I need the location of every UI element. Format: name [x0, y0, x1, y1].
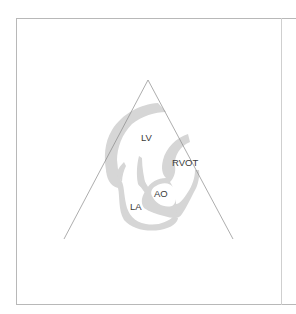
ultrasound-sector [64, 80, 233, 239]
heart-diagram [0, 0, 296, 314]
label-la: LA [130, 202, 142, 212]
label-ao: AO [154, 189, 168, 199]
label-lv: LV [141, 133, 152, 143]
label-rvot: RVOT [172, 158, 198, 168]
